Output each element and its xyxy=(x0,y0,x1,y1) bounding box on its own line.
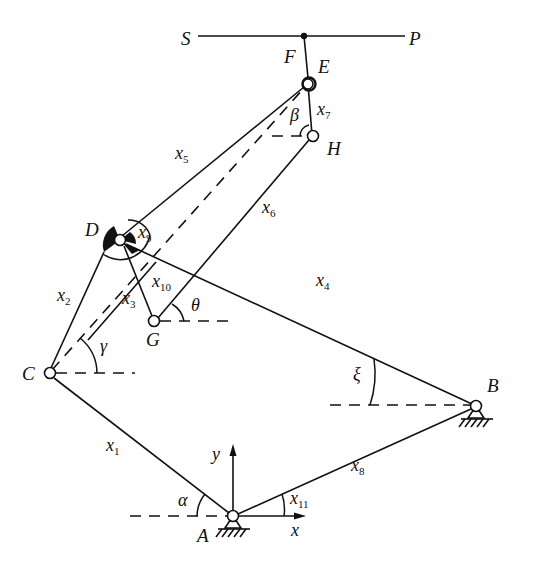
label-x3: x3 xyxy=(121,288,136,310)
label-p: P xyxy=(408,28,421,49)
label-x5: x5 xyxy=(174,143,189,165)
label-x2: x2 xyxy=(56,285,71,307)
label-x4: x4 xyxy=(315,270,330,292)
label-alpha: α xyxy=(178,490,188,510)
axes xyxy=(230,444,307,520)
label-g: G xyxy=(146,329,160,350)
label-beta: β xyxy=(289,105,299,125)
link-x5 xyxy=(122,87,304,236)
guide-line-sp xyxy=(198,33,405,39)
joint-d xyxy=(115,235,126,246)
link-x4 xyxy=(126,244,472,404)
label-x11: x11 xyxy=(289,488,309,510)
angle-x11-arc xyxy=(282,494,284,516)
joint-c xyxy=(45,368,56,379)
label-theta: θ xyxy=(191,295,200,315)
joint-e xyxy=(303,78,316,91)
angle-theta-arc xyxy=(172,304,184,321)
label-x9: x9 xyxy=(137,222,152,244)
label-f: F xyxy=(283,46,296,67)
label-x10: x10 xyxy=(151,271,172,293)
label-s: S xyxy=(181,28,191,49)
link-fe xyxy=(304,36,308,78)
link-x1 xyxy=(54,378,229,513)
angle-alpha-arc xyxy=(197,494,205,516)
angle-xi-arc xyxy=(370,359,375,405)
joint-h xyxy=(308,131,319,142)
label-h: H xyxy=(326,138,342,159)
linkage-diagram: S P F E H D G C B A x1 x2 x3 x4 x5 x6 x7… xyxy=(0,0,545,566)
joint-g xyxy=(149,316,160,327)
label-b: B xyxy=(487,375,499,396)
joint-a xyxy=(228,511,239,522)
angle-gamma-arc xyxy=(80,338,97,373)
label-d: D xyxy=(84,219,99,240)
joint-b xyxy=(471,401,482,412)
label-x7: x7 xyxy=(316,99,331,121)
label-e: E xyxy=(317,56,330,77)
label-gamma: γ xyxy=(100,336,108,356)
link-x2 xyxy=(51,252,104,368)
label-axis-x: x xyxy=(290,520,299,540)
label-x6: x6 xyxy=(261,197,276,219)
label-axis-y: y xyxy=(210,444,220,464)
label-a: A xyxy=(195,525,209,546)
label-xi: ξ xyxy=(353,364,361,384)
label-x1: x1 xyxy=(105,435,120,457)
label-c: C xyxy=(22,363,35,384)
